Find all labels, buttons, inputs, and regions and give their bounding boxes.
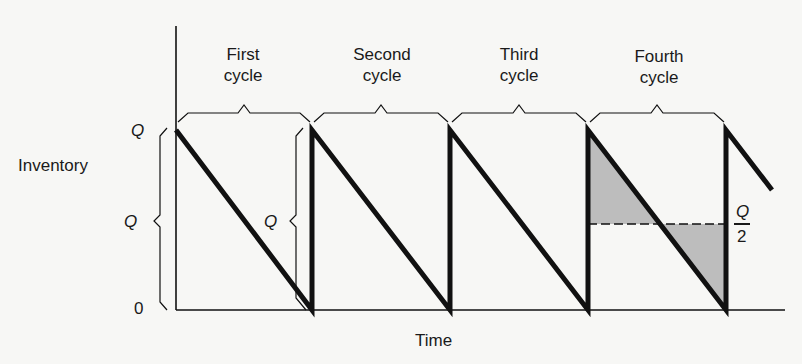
cycle-brace-1: [178, 105, 310, 122]
cycle-label-3: Third cycle: [474, 44, 564, 86]
cycle-brace-4: [590, 105, 724, 122]
y-tick-zero: 0: [134, 298, 143, 319]
cycle-label-2-line1: Second: [337, 44, 427, 65]
y-axis-label: Inventory: [18, 155, 88, 176]
cycle-brace-2: [314, 105, 448, 122]
y-tick-q: Q: [131, 120, 144, 141]
cycle-label-1-line1: First: [198, 44, 288, 65]
x-axis-label: Time: [415, 330, 452, 351]
cycle-label-3-line2: cycle: [474, 65, 564, 86]
inner-brace-label: Q: [264, 211, 277, 232]
left-q-brace: [154, 128, 167, 310]
cycle-label-1: First cycle: [198, 44, 288, 86]
cycle-brace-3: [452, 105, 586, 122]
fraction-bar: [734, 223, 750, 225]
cycle-label-1-line2: cycle: [198, 65, 288, 86]
cycle-label-2-line2: cycle: [337, 65, 427, 86]
cycle-label-3-line1: Third: [474, 44, 564, 65]
left-brace-label: Q: [124, 211, 137, 232]
cycle-label-2: Second cycle: [337, 44, 427, 86]
half-q-numerator: Q: [736, 201, 749, 222]
half-q-denominator: 2: [737, 226, 746, 247]
cycle-label-4-line1: Fourth: [614, 46, 704, 67]
cycle-label-4: Fourth cycle: [614, 46, 704, 88]
cycle-label-4-line2: cycle: [614, 67, 704, 88]
